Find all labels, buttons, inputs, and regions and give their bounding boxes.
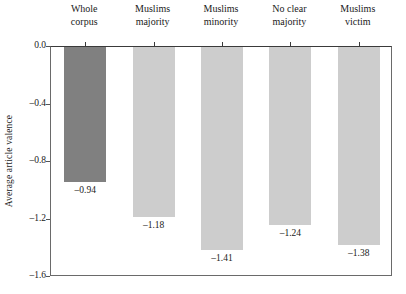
y-axis-title-text: Average article valence xyxy=(4,115,14,207)
bar-value-label: –1.38 xyxy=(329,248,389,258)
bar-value-label: –1.18 xyxy=(124,220,184,230)
x-axis-category-label: Muslimsvictim xyxy=(318,2,398,28)
bar xyxy=(338,47,380,245)
bar xyxy=(133,47,175,217)
y-axis-tick-label: –0.4 xyxy=(16,99,46,109)
y-axis-tick-label: –1.2 xyxy=(16,214,46,224)
x-axis-category-label-line: Muslims xyxy=(318,2,398,15)
plot-area: –0.94–1.18–1.41–1.24–1.38 xyxy=(50,46,392,276)
y-axis-tick-mark xyxy=(46,104,50,105)
x-axis-category-labels: WholecorpusMuslimsmajorityMuslimsminorit… xyxy=(50,2,392,46)
x-axis-tick-mark xyxy=(359,42,360,47)
y-axis-tick-label: –1.6 xyxy=(16,271,46,281)
y-axis-tick-mark xyxy=(46,219,50,220)
bar xyxy=(64,47,106,182)
bar xyxy=(269,47,311,225)
bar xyxy=(201,47,243,250)
y-axis-tick-mark xyxy=(46,46,50,47)
x-axis-tick-mark xyxy=(290,42,291,47)
y-axis-tick-label: –0.8 xyxy=(16,156,46,166)
bar-chart-figure: Average article valence 0.0–0.4–0.8–1.2–… xyxy=(0,0,406,294)
y-axis-tick-mark xyxy=(46,276,50,277)
bar-value-label: –0.94 xyxy=(55,185,115,195)
x-axis-tick-mark xyxy=(154,42,155,47)
y-axis-tick-mark xyxy=(46,161,50,162)
x-axis-tick-mark xyxy=(222,42,223,47)
y-axis-tick-label: 0.0 xyxy=(16,41,46,51)
y-axis-tick-labels: 0.0–0.4–0.8–1.2–1.6 xyxy=(16,0,46,294)
bar-value-label: –1.24 xyxy=(260,228,320,238)
x-axis-tick-mark xyxy=(85,42,86,47)
bar-value-label: –1.41 xyxy=(192,253,252,263)
x-axis-category-label-line: victim xyxy=(318,15,398,28)
